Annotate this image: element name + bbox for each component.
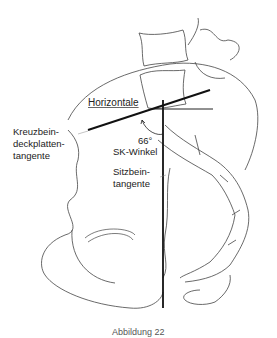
label-sacral-tangent-1: Kreuzbein- [13, 126, 59, 137]
sacral-endplate-tangent [88, 90, 210, 130]
label-ischial-tangent-2: tangente [113, 178, 150, 189]
figure-caption: Abbildung 22 [112, 327, 165, 338]
label-ischial-tangent-1: Sitzbein- [113, 166, 150, 177]
label-sacral-tangent-3: tangente [13, 150, 50, 161]
angle-arc [142, 120, 163, 134]
label-angle-name: SK-Winkel [113, 146, 157, 157]
label-horizontal: Horizontale [88, 97, 139, 108]
label-sacral-tangent-2: deckplatten- [13, 138, 65, 149]
label-angle-value: 66° [138, 135, 152, 146]
